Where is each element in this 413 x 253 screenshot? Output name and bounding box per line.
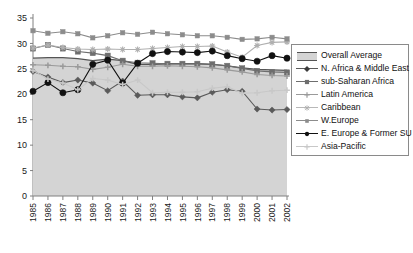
chart-legend: Overall Average N. Africa & Middle East … — [291, 44, 409, 156]
data-point — [150, 30, 154, 34]
data-point — [224, 53, 230, 59]
data-point — [105, 46, 111, 52]
legend-label-w-europe: W.Europe — [321, 115, 359, 126]
x-axis-tick-label: 2000 — [252, 203, 262, 222]
y-axis-tick-label: 25 — [17, 64, 27, 74]
data-point — [90, 61, 96, 67]
legend-swatch-n-africa-middle-east — [296, 63, 318, 74]
y-axis-tick-label: 10 — [17, 140, 27, 150]
data-point — [269, 53, 275, 59]
data-point — [46, 31, 50, 35]
data-point — [30, 88, 36, 94]
data-point — [254, 58, 260, 64]
data-point — [255, 37, 259, 41]
legend-swatch-latin-america — [296, 89, 318, 100]
legend-item-e-europe-former-su: E. Europe & Former SU — [296, 127, 405, 140]
series-w-europe — [31, 29, 289, 42]
data-point — [90, 47, 96, 53]
x-axis-tick-label: 2001 — [267, 203, 277, 222]
x-axis-tick-label: 1986 — [43, 203, 53, 222]
y-axis-tick-label: 20 — [17, 89, 27, 99]
data-point — [61, 30, 65, 34]
legend-label-n-africa-middle-east: N. Africa & Middle East — [321, 63, 409, 74]
legend-swatch-w-europe — [296, 115, 318, 126]
legend-swatch-e-europe-former-su — [296, 128, 318, 139]
series-area-overall-average — [33, 58, 287, 196]
data-point — [106, 34, 110, 38]
data-point — [209, 48, 215, 54]
data-point — [254, 42, 260, 48]
data-point — [135, 47, 141, 53]
legend-item-latin-america: Latin America — [296, 88, 405, 101]
x-axis-tick-label: 1992 — [133, 203, 143, 222]
x-axis-tick-label: 1996 — [193, 203, 203, 222]
x-axis-tick-label: 1987 — [58, 203, 68, 222]
data-point — [30, 45, 36, 51]
legend-item-asia-pacific: Asia-Pacific — [296, 140, 405, 153]
data-point — [60, 90, 66, 96]
legend-swatch-caribbean — [296, 102, 318, 113]
series-line — [33, 42, 287, 57]
legend-label-overall-average: Overall Average — [321, 50, 382, 61]
data-point — [240, 37, 244, 41]
data-point — [179, 49, 185, 55]
data-point — [105, 57, 111, 63]
legend-item-caribbean: Caribbean — [296, 101, 405, 114]
series-line — [33, 31, 287, 40]
x-axis-tick-label: 1985 — [28, 203, 38, 222]
data-point — [194, 49, 200, 55]
x-axis-tick-label: 1991 — [118, 203, 128, 222]
data-point — [194, 43, 200, 49]
data-point — [225, 35, 229, 39]
y-axis-tick-label: 0 — [22, 191, 27, 201]
x-axis-tick-label: 1995 — [178, 203, 188, 222]
y-axis-tick-label: 30 — [17, 39, 27, 49]
data-point — [270, 35, 274, 39]
x-axis-tick-label: 2002 — [282, 203, 292, 222]
y-axis-tick-label: 15 — [17, 115, 27, 125]
data-point — [179, 43, 185, 49]
legend-swatch-sub-saharan-africa — [296, 76, 318, 87]
legend-label-sub-saharan-africa: sub-Saharan Africa — [321, 76, 394, 87]
data-point — [31, 29, 35, 33]
legend-swatch-asia-pacific — [296, 141, 318, 152]
data-point — [91, 36, 95, 40]
legend-item-n-africa-middle-east: N. Africa & Middle East — [296, 62, 405, 75]
legend-item-sub-saharan-africa: sub-Saharan Africa — [296, 75, 405, 88]
x-axis-tick-label: 1994 — [163, 203, 173, 222]
data-point — [195, 34, 199, 38]
x-axis-tick-label: 1989 — [88, 203, 98, 222]
x-axis-tick-label: 1990 — [103, 203, 113, 222]
data-point — [135, 32, 139, 36]
legend-label-latin-america: Latin America — [321, 89, 373, 100]
data-point — [210, 34, 214, 38]
x-axis-tick-label: 1997 — [207, 203, 217, 222]
legend-swatch-overall-average — [296, 50, 318, 61]
data-point — [149, 51, 155, 57]
chart-figure: 0510152025303519851986198719881989199019… — [0, 0, 413, 253]
data-point — [75, 46, 81, 52]
data-point — [120, 31, 124, 35]
legend-label-e-europe-former-su: E. Europe & Former SU — [321, 128, 412, 139]
data-point — [120, 47, 126, 53]
x-axis-tick-label: 1993 — [148, 203, 158, 222]
data-point — [60, 44, 66, 50]
x-axis-tick-label: 1998 — [222, 203, 232, 222]
data-point — [165, 32, 169, 36]
x-axis-tick-label: 1999 — [237, 203, 247, 222]
x-axis-tick-label: 1988 — [73, 203, 83, 222]
data-point — [284, 55, 290, 61]
y-axis-tick-label: 5 — [22, 166, 27, 176]
data-point — [285, 37, 289, 41]
legend-label-caribbean: Caribbean — [321, 102, 361, 113]
data-point — [180, 33, 184, 37]
legend-item-w-europe: W.Europe — [296, 114, 405, 127]
data-point — [45, 42, 51, 48]
data-point — [269, 39, 275, 45]
data-point — [239, 56, 245, 62]
legend-label-asia-pacific: Asia-Pacific — [321, 141, 366, 152]
y-axis-tick-label: 35 — [17, 13, 27, 23]
legend-item-overall-average: Overall Average — [296, 49, 405, 62]
data-point — [134, 60, 140, 66]
data-point — [76, 32, 80, 36]
